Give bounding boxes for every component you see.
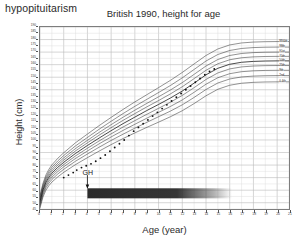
y-axis-ticks: 4550556065707580859095100105110115120125… [0,26,38,210]
centile-label-25th: 25th [279,64,285,67]
x-tick-mark [206,210,207,213]
y-tick-mark [36,96,39,97]
x-tick-label: 18 [252,213,256,216]
y-tick-mark [36,166,39,167]
y-tick-mark [36,39,39,40]
centile-label-75th: 75th [279,55,285,58]
centile-label-98th: 98th [279,46,285,49]
x-tick-mark [75,210,76,213]
x-tick-label: 7 [122,213,124,216]
x-tick-mark [111,210,112,213]
y-tick-mark [36,26,39,27]
x-tick-mark [254,210,255,213]
x-tick-label: 10 [157,213,161,216]
x-tick-mark [266,210,267,213]
x-tick-label: 17 [240,213,244,216]
x-tick-mark [182,210,183,213]
x-tick-mark [123,210,124,213]
gh-annotation-label: GH [83,169,94,176]
y-tick-mark [36,89,39,90]
growth-chart-figure: hypopituitarism British 1990, height for… [0,0,301,243]
x-tick-mark [147,210,148,213]
centile-label-9th: 9th [279,69,284,72]
y-tick-mark [36,83,39,84]
y-tick-mark [36,153,39,154]
y-tick-mark [36,134,39,135]
y-tick-mark [36,159,39,160]
y-tick-mark [36,115,39,116]
x-tick-mark [218,210,219,213]
y-tick-mark [36,147,39,148]
x-tick-label: 2 [62,213,64,216]
y-tick-mark [36,64,39,65]
centile-label-0-4th: 0.4th [279,81,286,84]
x-tick-label: 14 [204,213,208,216]
x-tick-mark [290,210,291,213]
x-tick-mark [39,210,40,213]
x-axis-ticks: 0123456789101112131415161718192021 [39,210,290,222]
chart-title: British 1990, height for age [0,8,301,19]
x-tick-label: 8 [134,213,136,216]
x-tick-mark [242,210,243,213]
y-tick-mark [36,128,39,129]
y-tick-mark [36,121,39,122]
y-tick-mark [36,70,39,71]
x-tick-label: 5 [98,213,100,216]
y-tick-mark [36,45,39,46]
centile-label-91st: 91st [279,51,285,54]
centile-label-50th: 50th [279,60,285,63]
y-tick-mark [36,108,39,109]
x-tick-mark [135,210,136,213]
y-tick-mark [36,51,39,52]
x-tick-label: 20 [276,213,280,216]
x-tick-label: 3 [74,213,76,216]
x-tick-label: 6 [110,213,112,216]
x-tick-label: 11 [169,213,173,216]
y-tick-mark [36,32,39,33]
y-tick-mark [36,172,39,173]
y-tick-mark [36,77,39,78]
data-layer [40,27,289,209]
x-tick-mark [99,210,100,213]
y-tick-mark [36,197,39,198]
x-tick-mark [230,210,231,213]
y-tick-mark [36,178,39,179]
y-tick-mark [36,58,39,59]
y-tick-mark [36,102,39,103]
x-tick-label: 16 [228,213,232,216]
y-tick-mark [36,191,39,192]
y-tick-mark [36,204,39,205]
x-tick-mark [87,210,88,213]
x-tick-label: 15 [216,213,220,216]
x-tick-label: 12 [181,213,185,216]
x-tick-mark [194,210,195,213]
plot-area: 0.4th2nd9th25th50th75th91st98th99.6thGH [39,26,290,210]
x-tick-label: 13 [192,213,196,216]
x-tick-mark [278,210,279,213]
x-tick-mark [63,210,64,213]
x-tick-label: 19 [264,213,268,216]
centile-label-2nd: 2nd [279,74,284,77]
x-tick-mark [51,210,52,213]
y-tick-mark [36,185,39,186]
x-tick-mark [170,210,171,213]
x-axis-label: Age (year) [39,224,290,235]
x-tick-label: 9 [146,213,148,216]
x-tick-label: 4 [86,213,88,216]
x-tick-mark [159,210,160,213]
y-tick-mark [36,210,39,211]
y-tick-mark [36,140,39,141]
x-tick-label: 21 [288,213,292,216]
x-tick-label: 0 [38,213,40,216]
x-tick-label: 1 [50,213,52,216]
centile-label-99-6th: 99.6th [279,40,288,43]
